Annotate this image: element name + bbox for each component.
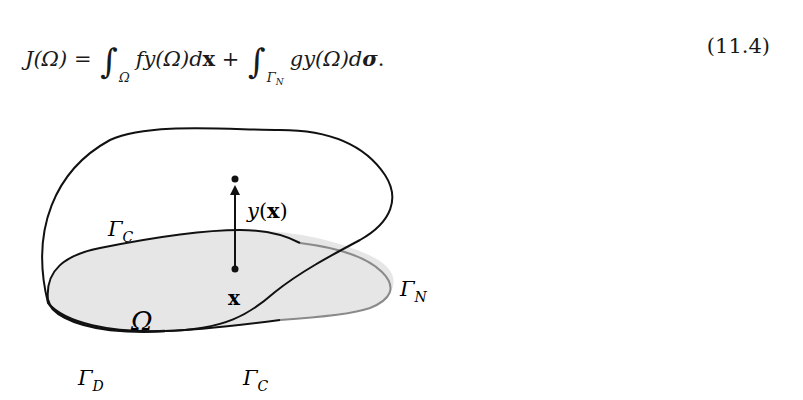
integral-sign-icon: ∫: [100, 41, 118, 81]
label-gamma-d: ΓD: [77, 366, 104, 394]
equation-number: (11.4): [707, 34, 770, 58]
domain-label: Ω: [130, 306, 153, 336]
integral2-domain-symbol: Γ: [267, 70, 276, 85]
label-gamma-c-top: ΓC: [107, 217, 134, 245]
differential-1: x: [203, 46, 216, 71]
equation-block: J(Ω) = ∫Ωfy(Ω)dx + ∫ΓNgy(Ω)dσ. (11.4): [25, 20, 785, 90]
integrand-1: fy(Ω)d: [136, 47, 203, 71]
displaced-point-icon: [232, 176, 239, 183]
label-gamma-c-bottom: ΓC: [242, 366, 269, 394]
arrow-head-icon: [230, 185, 240, 195]
domain-omega-region: [48, 230, 394, 331]
integral2-domain-sub: N: [276, 77, 284, 87]
material-point-icon: [232, 266, 239, 273]
integral2-domain: ΓN: [267, 70, 284, 85]
equals-sign: =: [74, 47, 92, 71]
displacement-label: y(x): [246, 198, 288, 223]
integrand-2: gy(Ω)d: [290, 47, 363, 71]
integral1-domain: Ω: [119, 70, 130, 85]
integral-sign-icon: ∫: [248, 41, 266, 81]
domain-figure: y(x) x Ω ΓC ΓN ΓD ΓC: [0, 100, 803, 400]
equation-lhs: J(Ω): [25, 47, 67, 71]
differential-2: σ: [362, 46, 377, 71]
point-label: x: [228, 286, 241, 310]
plus-sign: +: [222, 47, 240, 71]
label-gamma-n: ΓN: [399, 277, 428, 305]
equation-terminator: .: [378, 47, 385, 71]
equation-body: J(Ω) = ∫Ωfy(Ω)dx + ∫ΓNgy(Ω)dσ.: [25, 34, 384, 74]
